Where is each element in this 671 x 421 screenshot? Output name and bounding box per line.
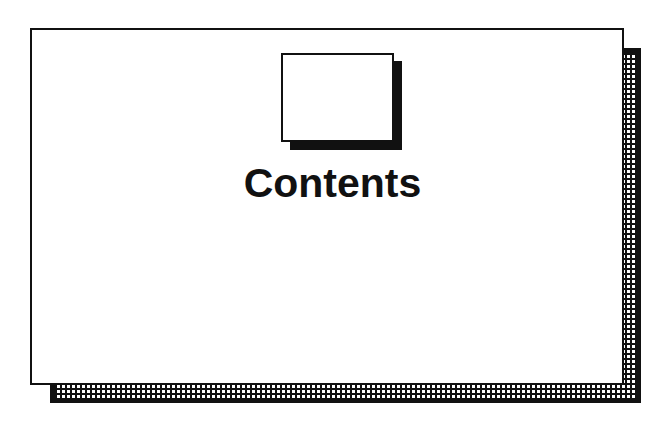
page-title: Contents: [0, 160, 668, 207]
blank-page-icon: [281, 53, 394, 142]
